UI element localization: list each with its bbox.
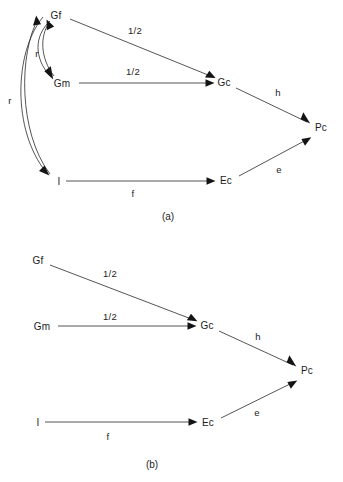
- node-label-gm: Gm: [54, 78, 71, 89]
- figure-a-caption: (a): [162, 211, 174, 222]
- edge-label-gf-i-r: r: [8, 96, 11, 106]
- edge-label-gm-gc: 1/2: [103, 312, 117, 322]
- edge-i-gf-return: [25, 15, 50, 174]
- edge-gc-pc: [236, 88, 310, 124]
- edge-gm-gc: [79, 79, 215, 87]
- edge-gf-gc: [70, 19, 216, 78]
- node-label-ec: Ec: [220, 175, 232, 186]
- node-label-i: I: [58, 176, 61, 187]
- edge-label-ec-pc: e: [254, 408, 259, 418]
- node-label-pc: Pc: [301, 365, 313, 376]
- node-label-gf: Gf: [51, 10, 62, 21]
- edge-label-ec-pc: e: [276, 165, 281, 175]
- edge-gf-gc: [50, 265, 197, 321]
- edge-gm-gf-return: [43, 20, 54, 76]
- edge-label-gf-gc: 1/2: [128, 26, 142, 36]
- node-label-i: I: [37, 417, 40, 428]
- node-label-ec: Ec: [202, 417, 214, 428]
- node-label-gc: Gc: [200, 320, 213, 331]
- figure-b: Gf Gm I Gc Ec Pc 1/2 1/2 h e f (b): [0, 232, 343, 482]
- edge-gm-gc: [58, 322, 197, 330]
- edge-label-gf-gm-r: r: [35, 49, 38, 59]
- figure-a: Gf Gm I Gc Ec Pc 1/2 1/2 h e f r r (a): [0, 0, 343, 232]
- figure-a-graph-canvas: [0, 0, 343, 232]
- edge-label-gc-pc: h: [255, 332, 260, 342]
- edge-label-i-ec: f: [132, 189, 135, 199]
- edge-label-i-ec: f: [107, 432, 110, 442]
- node-label-gf: Gf: [33, 255, 44, 266]
- edge-label-gf-gc: 1/2: [103, 269, 117, 279]
- edge-label-gm-gc: 1/2: [126, 67, 140, 77]
- edge-ec-pc: [239, 137, 311, 176]
- edge-i-ec: [66, 177, 216, 185]
- figure-b-graph-canvas: [0, 232, 343, 482]
- edge-i-ec: [45, 418, 198, 426]
- node-label-pc: Pc: [315, 122, 327, 133]
- node-label-gc: Gc: [217, 77, 230, 88]
- figure-b-caption: (b): [146, 459, 158, 470]
- edge-label-gc-pc: h: [275, 88, 280, 98]
- node-label-gm: Gm: [34, 321, 51, 332]
